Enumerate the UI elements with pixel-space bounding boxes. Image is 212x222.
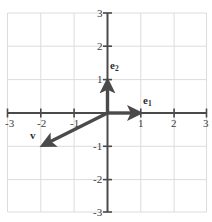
y-tick-label-2: 2: [97, 41, 103, 52]
y-tick-label-3: 3: [97, 8, 103, 19]
x-tick-label--3: -3: [5, 118, 14, 129]
x-tick-label-1: 1: [138, 118, 144, 129]
y-tick-label-1: 1: [97, 74, 103, 85]
vector-label-e2-subscript: 2: [115, 64, 119, 73]
y-tick-label--2: -2: [93, 174, 102, 185]
vector-label-e1-subscript: 1: [148, 99, 152, 108]
y-tick-label--3: -3: [93, 207, 102, 218]
y-tick-label--1: -1: [93, 141, 102, 152]
vector-label-e2: e2: [110, 60, 119, 71]
x-tick-label--2: -2: [37, 118, 46, 129]
coordinate-plane-svg: [0, 0, 212, 222]
x-tick-label-3: 3: [203, 118, 209, 129]
vector-label-v: v: [30, 130, 36, 141]
x-tick-label-2: 2: [171, 118, 177, 129]
x-tick-label--1: -1: [70, 118, 79, 129]
vector-plot-figure: -3 -2 -1 1 2 3 3 2 1 -1 -2 -3 e1 e2 v: [0, 0, 212, 222]
vector-label-e1: e1: [143, 95, 152, 106]
